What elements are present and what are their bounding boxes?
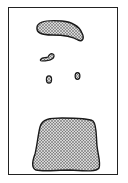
- figure: [0, 0, 128, 183]
- right-small-oval: [75, 73, 80, 80]
- left-small-oval: [46, 76, 51, 83]
- bottom-large-blob: [33, 118, 100, 171]
